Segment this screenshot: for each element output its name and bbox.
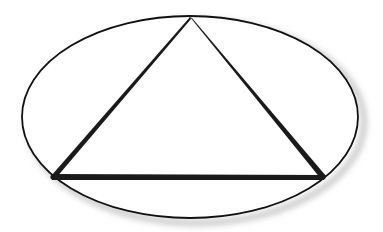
- ellipse-triangle-diagram: [0, 0, 383, 232]
- vertex-bottom-right: [320, 174, 325, 179]
- triangle-base: [52, 174, 324, 180]
- ellipse: [22, 16, 358, 218]
- vertex-bottom-left: [50, 174, 55, 179]
- vertex-apex: [189, 16, 191, 18]
